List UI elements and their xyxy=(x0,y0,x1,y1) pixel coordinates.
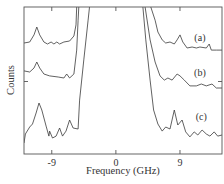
plot-frame xyxy=(24,7,222,154)
series-label-c: (c) xyxy=(196,111,207,123)
series-a-left-line xyxy=(24,7,77,44)
series-c-right-line xyxy=(143,7,222,137)
series-a-right-line xyxy=(151,7,222,50)
x-tick-label: -9 xyxy=(48,157,56,168)
ticks-layer: -909 xyxy=(24,7,222,168)
series-label-a: (a) xyxy=(194,32,205,44)
series-c-left-line xyxy=(24,7,90,143)
y-axis-label: Counts xyxy=(5,65,16,95)
series-label-b: (b) xyxy=(194,67,206,79)
spectra-chart: -909 (a)(b)(c) Frequency (GHz) Counts xyxy=(0,0,224,184)
x-tick-label: 9 xyxy=(177,157,182,168)
x-axis-label: Frequency (GHz) xyxy=(86,165,160,177)
curves-layer xyxy=(24,7,222,143)
series-labels-layer: (a)(b)(c) xyxy=(194,32,207,123)
